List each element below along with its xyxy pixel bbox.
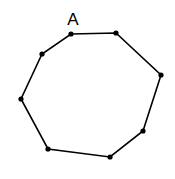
polygon-vertex-dot: [107, 154, 112, 159]
figure-canvas: A: [0, 0, 175, 179]
vertex-label-a: A: [67, 10, 79, 29]
polygon-vertex-dot: [68, 31, 73, 36]
polygon-vertex-dot: [18, 96, 23, 101]
polygon-vertex-dot: [158, 72, 163, 77]
polygon-vertex-dot: [113, 30, 118, 35]
polygon-vertex-dot: [39, 51, 44, 56]
polygon-vertex-dot: [140, 128, 145, 133]
annotation-group: A: [67, 10, 79, 29]
polygon-vertex-dot: [45, 146, 50, 151]
polygon-figure-svg: A: [0, 0, 175, 179]
vertex-dot-group: [18, 30, 163, 159]
